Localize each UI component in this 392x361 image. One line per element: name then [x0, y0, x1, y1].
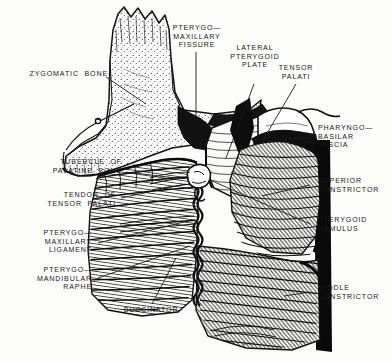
label-tendon-of-tensor-palati: TENDON OF TENSOR PALATI	[12, 191, 116, 208]
artist-signature: K.J.L.	[243, 341, 258, 346]
illustration-drawing	[62, 7, 340, 352]
superior-constrictor-shape	[229, 142, 322, 256]
buccinator-shape	[86, 159, 200, 316]
middle-constrictor-shape	[194, 246, 322, 351]
label-tensor-palati: TENSOR PALATI	[268, 64, 324, 81]
label-pharyngo-basilar-fascia: PHARYNGO— BASILAR FASCIA	[318, 124, 392, 150]
label-buccinator: BUCCINATOR	[112, 306, 190, 315]
label-pterygo-mandibular-raphe: PTERYGO— MANDIBULAR RAPHE	[10, 266, 92, 292]
label-pterygo-maxillary-ligament: PTERYGO— MAXILLARY LIGAMENT	[10, 229, 92, 255]
figure-page: ZYGOMATIC BONE PTERYGO— MAXILLARY FISSUR…	[0, 0, 392, 361]
label-zygomatic-bone: ZYGOMATIC BONE	[8, 70, 108, 79]
label-pterygoid-hamulus: PTERYGOID HAMULUS	[318, 216, 392, 233]
label-middle-constrictor: MIDDLE CONSTRICTOR	[318, 284, 392, 301]
label-superior-constrictor: SUPERIOR CONSTRICTOR	[318, 177, 392, 194]
label-tubercle-of-palatine-bone: TUBERCLE OF PALATINE BONE	[12, 158, 122, 175]
